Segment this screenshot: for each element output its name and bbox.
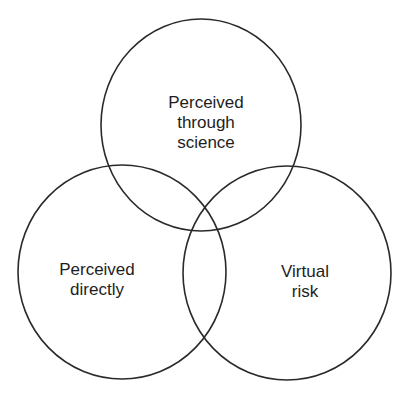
label-top-line-1: Perceived: [168, 93, 244, 112]
label-left-line-2: directly: [70, 280, 124, 299]
label-top-line-2: through: [177, 113, 235, 132]
label-top-line-3: science: [177, 133, 235, 152]
label-right-line-1: Virtual: [281, 262, 329, 281]
venn-diagram: Perceived through science Perceived dire…: [0, 0, 402, 394]
label-left-line-1: Perceived: [59, 260, 135, 279]
label-right-line-2: risk: [292, 282, 319, 301]
